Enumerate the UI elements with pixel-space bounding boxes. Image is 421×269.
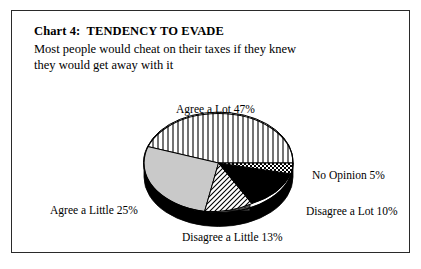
pie-label-disagree-a-little: Disagree a Little 13%: [182, 231, 283, 244]
pie-label-no-opinion: No Opinion 5%: [312, 169, 385, 182]
pie-slice-disagree-a-lot: [219, 163, 291, 204]
pie-slice-disagree-a-little: [205, 163, 252, 212]
pie-slice-no-opinion: [219, 163, 294, 174]
pie-slice-agree-a-lot: [148, 112, 293, 163]
pie-3d-side-wall: [144, 163, 293, 227]
pie-slice-agree-a-little: [143, 147, 218, 212]
pie-slices: [143, 112, 293, 211]
pie-outline: [144, 114, 293, 213]
chart-title: Chart 4: TENDENCY TO EVADE: [34, 24, 224, 39]
pie-label-agree-a-little: Agree a Little 25%: [50, 204, 138, 217]
chart-figure: Chart 4: TENDENCY TO EVADE Most people w…: [0, 0, 421, 269]
chart-frame-border: Chart 4: TENDENCY TO EVADE Most people w…: [11, 10, 410, 253]
pie-label-disagree-a-lot: Disagree a Lot 10%: [306, 205, 398, 218]
pie-label-agree-a-lot: Agree a Lot 47%: [176, 103, 255, 116]
chart-subtitle: Most people would cheat on their taxes i…: [34, 41, 384, 73]
